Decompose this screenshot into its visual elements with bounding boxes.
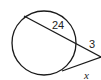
diagram-canvas: 24 3 x — [0, 0, 101, 80]
tangent-label: x — [83, 69, 89, 80]
circle — [12, 11, 76, 75]
secant-external-label: 3 — [89, 38, 95, 50]
secant-internal-label: 24 — [52, 19, 64, 31]
